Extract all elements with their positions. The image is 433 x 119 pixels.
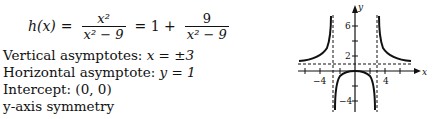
y-tick-label-6: 6 xyxy=(345,21,351,31)
property-symmetry: y-axis symmetry xyxy=(3,98,196,115)
property-label: Horizontal asymptote: xyxy=(3,64,155,80)
property-value: y = 1 xyxy=(160,64,196,80)
equation: h(x) = x² x² − 9 = 1 + 9 x² − 9 xyxy=(28,6,233,46)
x-axis-arrow-icon xyxy=(414,68,421,74)
y-tick-label-2: 2 xyxy=(345,51,351,61)
fraction-2-numerator: 9 xyxy=(201,11,213,26)
properties-list: Vertical asymptotes: x = ±3 Horizontal a… xyxy=(3,47,196,115)
y-tick-label-neg4: −4 xyxy=(339,96,353,106)
fraction-2: 9 x² − 9 xyxy=(185,11,229,42)
property-label: Intercept: xyxy=(3,81,71,97)
property-value: (0, 0) xyxy=(75,81,111,97)
property-vertical-asymptotes: Vertical asymptotes: x = ±3 xyxy=(3,47,196,64)
x-tick-label-4: 4 xyxy=(383,76,389,86)
fraction-2-denominator: x² − 9 xyxy=(185,26,229,42)
function-graph: y x −4 4 6 2 −4 xyxy=(290,0,433,119)
equation-lhs: h(x) xyxy=(28,18,56,34)
fraction-1-denominator: x² − 9 xyxy=(82,26,126,42)
fraction-1: x² x² − 9 xyxy=(82,11,126,42)
x-tick-label-neg4: −4 xyxy=(313,76,327,86)
property-label: y-axis symmetry xyxy=(3,98,114,114)
property-label: Vertical asymptotes: xyxy=(3,47,142,63)
right-branch xyxy=(379,16,411,61)
property-value: x = ±3 xyxy=(147,47,194,63)
property-intercept: Intercept: (0, 0) xyxy=(3,81,196,98)
x-axis-label: x xyxy=(422,67,427,77)
equals-sign: = xyxy=(61,18,73,34)
equals-one-plus: = 1 + xyxy=(135,18,176,34)
left-branch xyxy=(299,16,331,61)
y-axis-label: y xyxy=(357,2,364,12)
fraction-1-numerator: x² xyxy=(95,11,112,26)
property-horizontal-asymptote: Horizontal asymptote: y = 1 xyxy=(3,64,196,81)
